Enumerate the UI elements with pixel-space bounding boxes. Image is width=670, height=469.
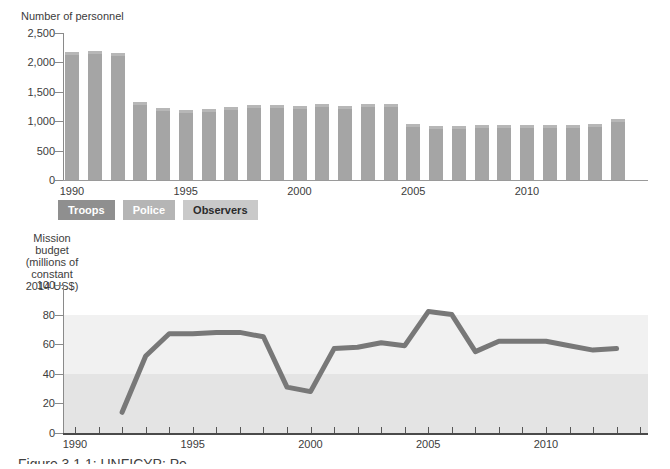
budget-line-svg — [0, 0, 670, 469]
figure-page: Number of personnel 2,5002,0001,5001,000… — [0, 0, 670, 469]
figure-caption: Figure 3.1.1: UNFICYP: Pe — [18, 456, 418, 464]
budget-line — [122, 312, 616, 413]
